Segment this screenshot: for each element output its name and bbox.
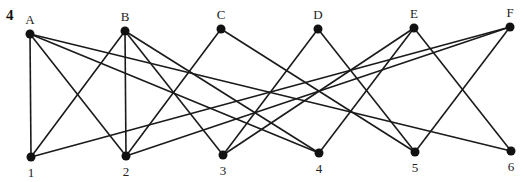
- node-label-D: D: [313, 7, 322, 22]
- node-label-1: 1: [28, 165, 35, 180]
- node-D: [314, 25, 323, 34]
- edge-B-4: [125, 31, 319, 153]
- edges: [30, 27, 511, 157]
- node-label-5: 5: [412, 160, 419, 175]
- node-label-C: C: [217, 7, 226, 22]
- node-label-4: 4: [316, 161, 323, 176]
- node-label-A: A: [25, 12, 35, 27]
- node-5: [411, 148, 420, 157]
- node-3: [219, 151, 228, 160]
- node-label-3: 3: [220, 163, 227, 178]
- edge-C-2: [126, 29, 221, 156]
- node-1: [27, 153, 36, 162]
- node-C: [217, 25, 226, 34]
- node-E: [410, 24, 419, 33]
- node-label-6: 6: [508, 159, 515, 174]
- node-F: [506, 23, 515, 32]
- node-6: [507, 147, 516, 156]
- edge-B-2: [125, 31, 126, 156]
- node-label-E: E: [410, 6, 418, 21]
- node-4: [315, 149, 324, 158]
- node-2: [122, 152, 131, 161]
- edge-F-5: [415, 27, 510, 152]
- node-B: [121, 27, 130, 36]
- question-number: 4: [6, 7, 14, 23]
- node-label-2: 2: [123, 164, 130, 179]
- node-A: [26, 30, 35, 39]
- edge-A-1: [30, 34, 31, 157]
- node-label-B: B: [121, 9, 130, 24]
- node-label-F: F: [506, 5, 513, 20]
- bipartite-graph-diagram: 4 ABCDEF123456: [0, 0, 524, 182]
- edge-E-4: [319, 28, 414, 153]
- edge-F-1: [31, 27, 510, 157]
